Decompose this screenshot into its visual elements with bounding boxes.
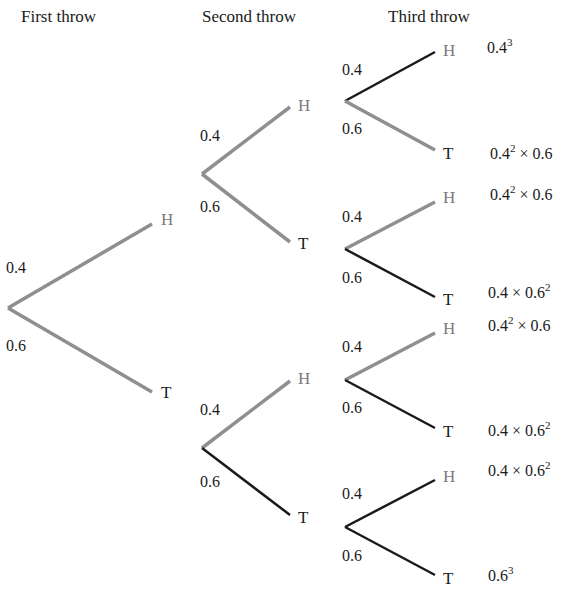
prob-TH: 0.4 [200, 402, 220, 418]
node-TT: T [298, 509, 308, 526]
result-HTT: 0.4 × 0.62 [488, 285, 551, 301]
prob-HH: 0.4 [200, 128, 220, 144]
result-TTH: 0.4 × 0.62 [488, 463, 551, 479]
node-HHH: H [443, 42, 455, 59]
node-THT: T [443, 423, 453, 440]
prob-TT: 0.6 [200, 474, 220, 490]
prob-HT: 0.6 [200, 199, 220, 215]
node-T: T [161, 384, 171, 401]
branch-T [8, 308, 152, 392]
header-third-throw: Third throw [388, 8, 470, 25]
prob-HHH: 0.4 [342, 62, 362, 78]
node-HHT: T [443, 145, 453, 162]
result-HTH: 0.42 × 0.6 [490, 187, 553, 203]
node-TTH: H [443, 468, 455, 485]
prob-TTH: 0.4 [342, 486, 362, 502]
prob-THT: 0.6 [342, 400, 362, 416]
node-HT: T [298, 235, 308, 252]
result-HHH: 0.43 [487, 40, 513, 56]
branch-H [8, 224, 152, 308]
tree-branches [0, 0, 571, 589]
result-THT: 0.4 × 0.62 [488, 423, 551, 439]
node-HTH: H [443, 189, 455, 206]
result-THH: 0.42 × 0.6 [488, 318, 551, 334]
prob-H: 0.4 [6, 260, 26, 276]
node-THH: H [443, 320, 455, 337]
prob-TTT: 0.6 [342, 548, 362, 564]
prob-HHT: 0.6 [342, 121, 362, 137]
prob-THH: 0.4 [342, 339, 362, 355]
node-TTT: T [443, 570, 453, 587]
result-TTT: 0.63 [488, 568, 514, 584]
header-first-throw: First throw [21, 8, 96, 25]
result-HHT: 0.42 × 0.6 [490, 146, 553, 162]
node-HH: H [298, 97, 310, 114]
prob-T: 0.6 [6, 338, 26, 354]
node-TH: H [298, 370, 310, 387]
prob-HTT: 0.6 [342, 270, 362, 286]
node-H: H [161, 211, 173, 228]
header-second-throw: Second throw [202, 8, 296, 25]
prob-HTH: 0.4 [342, 209, 362, 225]
node-HTT: T [443, 291, 453, 308]
